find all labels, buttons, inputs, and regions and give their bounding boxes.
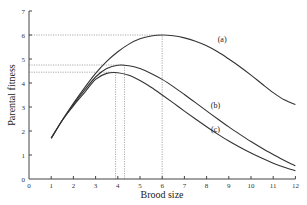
reference-lines (29, 35, 162, 179)
y-tick-label: 6 (22, 32, 26, 40)
parental-fitness-chart: 0123456789101112 01234567 (a)(b)(c) Broo… (0, 0, 307, 205)
series-label: (c) (211, 125, 220, 134)
y-tick-label: 1 (22, 152, 26, 160)
y-tick-label: 5 (22, 56, 26, 64)
x-tick-label: 11 (270, 182, 277, 190)
x-tick-label: 4 (116, 182, 120, 190)
y-tick-label: 7 (22, 8, 26, 16)
series-lines (51, 35, 295, 171)
series-line-b (51, 65, 295, 166)
y-ticks: 01234567 (22, 8, 33, 184)
x-tick-label: 3 (94, 182, 98, 190)
x-tick-label: 1 (49, 182, 53, 190)
y-tick-label: 3 (22, 104, 26, 112)
x-tick-label: 10 (248, 182, 256, 190)
series-label: (a) (218, 35, 227, 44)
x-axis-title: Brood size (140, 189, 184, 200)
x-tick-label: 12 (292, 182, 300, 190)
x-tick-label: 9 (227, 182, 231, 190)
series-label: (b) (211, 101, 221, 110)
y-tick-label: 4 (22, 80, 26, 88)
x-ticks: 0123456789101112 (27, 176, 299, 190)
x-tick-label: 2 (72, 182, 76, 190)
y-tick-label: 2 (22, 128, 26, 136)
x-tick-label: 8 (205, 182, 209, 190)
y-axis-title: Parental fitness (6, 64, 17, 125)
y-tick-label: 0 (22, 176, 26, 184)
x-tick-label: 0 (27, 182, 31, 190)
